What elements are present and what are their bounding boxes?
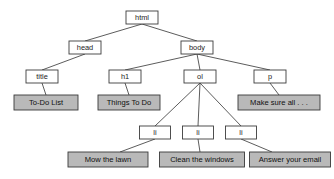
element-label-head: head [77,43,93,52]
element-label-h1: h1 [121,72,129,81]
tree-edge-body-to-ol [197,54,200,70]
text-node-t_h1: Things To Do [98,95,160,110]
element-label-html: html [135,13,149,22]
tree-edge-ol-to-li1 [155,83,200,126]
tree-edge-title-to-t_title [42,83,46,95]
text-label-t_li2: Clean the windows [170,155,234,164]
element-node-li2: li [183,126,214,139]
dom-tree-diagram: To-Do ListThings To DoMake sure all . . … [0,0,334,179]
element-node-li3: li [226,126,257,139]
tree-edge-li1-to-t_li1 [120,139,155,152]
tree-edge-ol-to-li2 [198,83,200,126]
tree-edge-html-to-head [85,24,142,41]
element-label-li2: li [196,128,200,137]
element-node-li1: li [140,126,171,139]
tree-edge-p-to-t_p [270,83,279,95]
element-label-body: body [189,43,205,52]
tree-edge-html-to-body [142,24,197,41]
element-label-li3: li [239,128,243,137]
tree-edge-h1-to-t_h1 [125,83,129,95]
tree-edge-head-to-title [42,54,85,70]
text-node-t_li3: Answer your email [250,152,331,167]
text-label-t_li1: Mow the lawn [85,155,131,164]
element-label-p: p [268,72,272,81]
element-label-li1: li [153,128,157,137]
text-node-t_title: To-Do List [14,95,78,110]
element-node-p: p [254,70,286,83]
element-node-body: body [181,41,213,54]
element-node-ol: ol [184,70,216,83]
text-label-t_title: To-Do List [29,98,64,107]
element-node-head: head [69,41,101,54]
element-label-title: title [36,72,48,81]
element-node-html: html [126,11,158,24]
element-label-ol: ol [197,72,203,81]
text-node-t_p: Make sure all . . . [238,95,320,110]
node-layer: To-Do ListThings To DoMake sure all . . … [14,11,331,167]
tree-edge-ol-to-li3 [200,83,241,126]
text-node-t_li1: Mow the lawn [68,152,148,167]
text-label-t_li3: Answer your email [259,155,322,164]
tree-canvas: To-Do ListThings To DoMake sure all . . … [0,0,334,179]
text-label-t_p: Make sure all . . . [250,98,308,107]
tree-edge-body-to-p [197,54,270,70]
text-label-t_h1: Things To Do [107,98,152,107]
tree-edge-li3-to-t_li3 [241,139,272,152]
tree-edge-li2-to-t_li2 [198,139,200,152]
element-node-h1: h1 [109,70,141,83]
element-node-title: title [26,70,58,83]
text-node-t_li2: Clean the windows [160,152,245,167]
tree-edge-body-to-h1 [125,54,197,70]
